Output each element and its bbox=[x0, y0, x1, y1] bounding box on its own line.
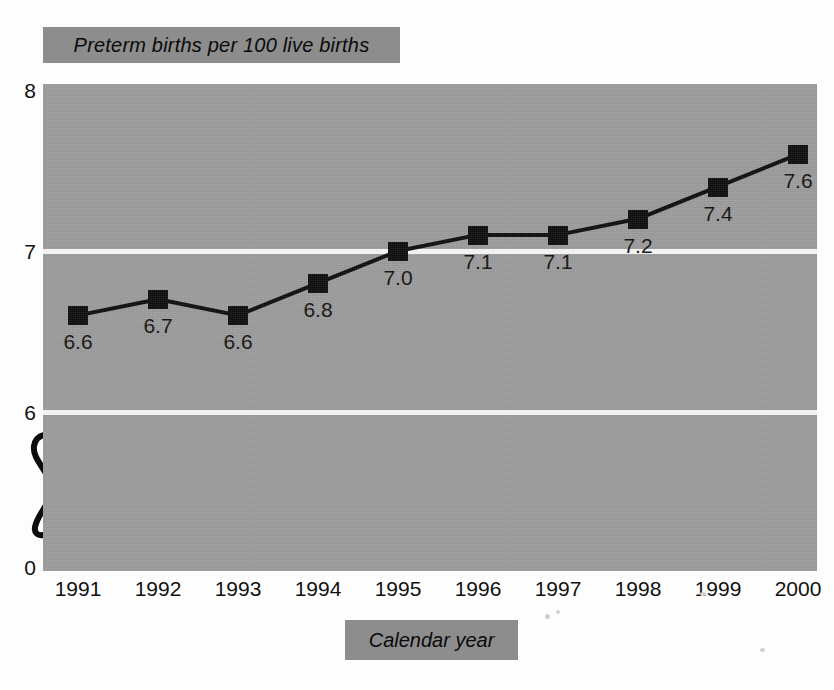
data-point-marker bbox=[548, 226, 568, 245]
scan-speckle bbox=[760, 648, 765, 652]
data-point-label: 7.6 bbox=[763, 170, 817, 191]
x-axis-labels: 1991199219931994199519961997199819992000 bbox=[43, 578, 817, 606]
data-point-label: 6.7 bbox=[123, 315, 193, 336]
data-point-marker bbox=[628, 210, 648, 229]
x-axis-tick-label: 1991 bbox=[43, 578, 113, 599]
y-axis-tick-label: 0 bbox=[0, 557, 36, 578]
data-point-marker bbox=[468, 226, 488, 245]
scan-speckle bbox=[556, 610, 560, 614]
x-axis-tick-label: 1998 bbox=[603, 578, 673, 599]
data-point-label: 7.1 bbox=[523, 251, 593, 272]
x-axis-tick-label: 1997 bbox=[523, 578, 593, 599]
chart-title-band: Preterm births per 100 live births bbox=[43, 27, 400, 63]
x-axis-tick-label: 2000 bbox=[763, 578, 833, 599]
chart-figure: Preterm births per 100 live births 8760 … bbox=[0, 0, 834, 690]
data-layer: 6.66.76.66.87.07.17.17.27.47.6 bbox=[43, 84, 817, 571]
data-point-marker bbox=[148, 290, 168, 309]
data-point-label: 6.6 bbox=[203, 331, 273, 352]
x-axis-tick-label: 1999 bbox=[683, 578, 753, 599]
data-point-label: 7.1 bbox=[443, 251, 513, 272]
data-point-marker bbox=[708, 178, 728, 197]
data-point-marker bbox=[308, 274, 328, 293]
y-axis-tick-label: 8 bbox=[0, 80, 36, 101]
x-axis-title-band: Calendar year bbox=[345, 620, 518, 660]
y-axis-tick-label: 6 bbox=[0, 402, 36, 423]
x-axis-tick-label: 1994 bbox=[283, 578, 353, 599]
x-axis-tick-label: 1996 bbox=[443, 578, 513, 599]
y-axis-tick-label: 7 bbox=[0, 241, 36, 262]
data-point-marker bbox=[388, 242, 408, 261]
x-axis-title: Calendar year bbox=[369, 629, 495, 652]
data-point-marker bbox=[228, 306, 248, 325]
data-point-label: 7.2 bbox=[603, 235, 673, 256]
x-axis-tick-label: 1992 bbox=[123, 578, 193, 599]
data-point-marker bbox=[68, 306, 88, 325]
x-axis-tick-label: 1995 bbox=[363, 578, 433, 599]
x-axis-tick-label: 1993 bbox=[203, 578, 273, 599]
data-point-marker bbox=[788, 145, 808, 164]
scan-speckle bbox=[545, 614, 550, 619]
chart-title: Preterm births per 100 live births bbox=[74, 34, 370, 57]
data-point-label: 7.0 bbox=[363, 267, 433, 288]
data-point-label: 7.4 bbox=[683, 203, 753, 224]
data-point-label: 6.6 bbox=[43, 331, 113, 352]
data-point-label: 6.8 bbox=[283, 299, 353, 320]
plot-area: 6.66.76.66.87.07.17.17.27.47.6 bbox=[43, 84, 817, 571]
